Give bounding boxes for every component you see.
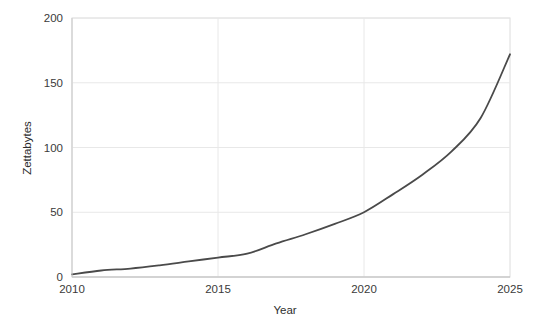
y-axis-title: Zettabytes xyxy=(21,121,33,175)
chart-figure: 050100150200 2010201520202025 Zettabytes… xyxy=(0,0,539,329)
x-tick-label: 2020 xyxy=(351,283,377,295)
y-tick-label: 50 xyxy=(50,206,63,218)
chart-background xyxy=(0,0,539,329)
y-tick-label: 100 xyxy=(44,142,63,154)
y-tick-label: 0 xyxy=(57,271,63,283)
y-tick-label: 200 xyxy=(44,12,63,24)
y-tick-label: 150 xyxy=(44,77,63,89)
x-tick-label: 2015 xyxy=(205,283,231,295)
x-tick-label: 2010 xyxy=(59,283,85,295)
line-chart: 050100150200 2010201520202025 Zettabytes… xyxy=(0,0,539,329)
x-axis-title: Year xyxy=(273,304,296,316)
x-tick-label: 2025 xyxy=(497,283,523,295)
